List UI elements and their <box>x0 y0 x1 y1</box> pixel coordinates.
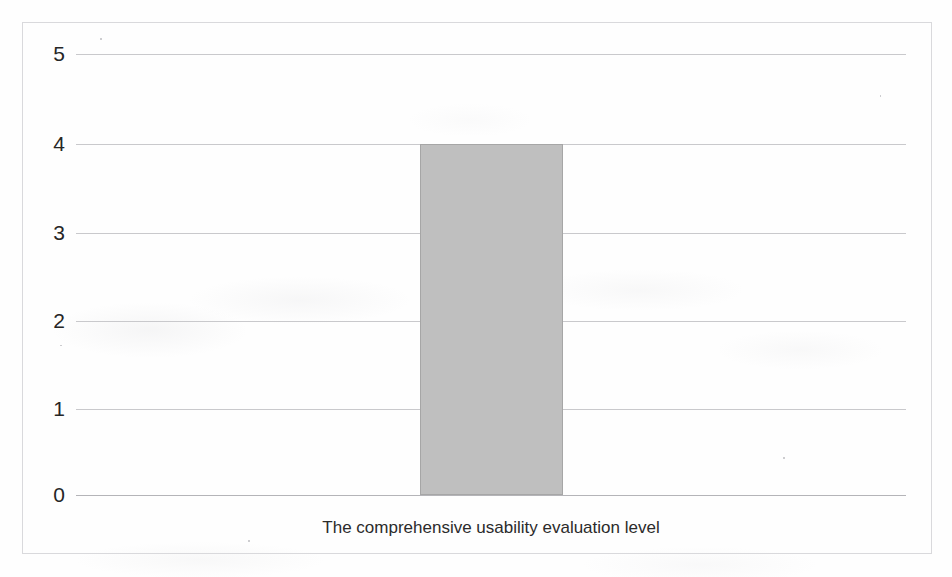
plot-area: 5 4 3 2 1 0 The comprehensive usability … <box>23 23 933 555</box>
x-axis-label: The comprehensive usability evaluation l… <box>76 518 906 538</box>
chart-screenshot: 5 4 3 2 1 0 The comprehensive usability … <box>0 0 952 577</box>
bar-series <box>23 23 933 555</box>
bar-the-comprehensive-usability-evaluation-level[interactable] <box>420 144 563 495</box>
chart-frame: 5 4 3 2 1 0 The comprehensive usability … <box>22 22 932 554</box>
